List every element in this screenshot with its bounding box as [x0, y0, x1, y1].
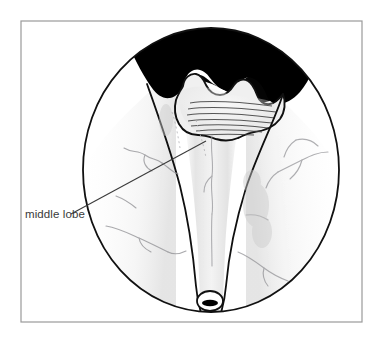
verumontanum-orifice	[202, 300, 218, 306]
figure-root: middle lobe	[0, 0, 384, 346]
middle-lobe-label: middle lobe	[25, 208, 85, 220]
cystoscopy-illustration: middle lobe	[0, 0, 384, 346]
